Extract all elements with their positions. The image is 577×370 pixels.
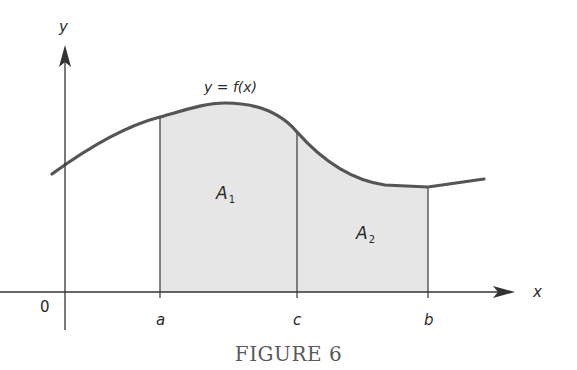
region-a1-subscript: 1 [229, 194, 235, 205]
tick-label-b: b [424, 313, 434, 328]
curve-label: y = f(x) [204, 80, 257, 94]
area-diagram [0, 0, 577, 370]
tick-label-a: a [156, 313, 165, 328]
tick-label-c: c [293, 313, 301, 328]
region-label-a1: A1 [216, 185, 235, 205]
figure-caption: FIGURE 6 [0, 342, 577, 366]
region-label-a2: A2 [356, 225, 375, 245]
y-axis-label: y [59, 20, 68, 35]
shaded-area [160, 103, 428, 292]
origin-label: 0 [40, 300, 50, 315]
region-a2-subscript: 2 [369, 234, 375, 245]
region-a1-letter: A [216, 183, 228, 203]
region-a2-letter: A [356, 223, 368, 243]
x-axis-label: x [533, 285, 542, 300]
